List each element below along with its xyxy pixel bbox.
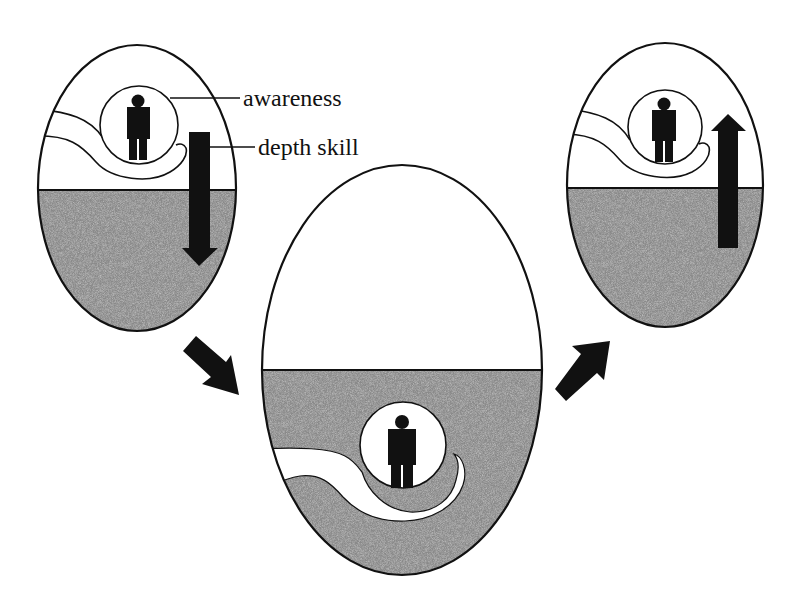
transition-arrow-up-right-icon	[555, 341, 610, 401]
depth-skill-label: depth skill	[258, 134, 359, 160]
transition-arrow-down-right-icon	[183, 336, 239, 395]
depth-skill-diagram: awareness depth skill	[0, 0, 801, 607]
awareness-label: awareness	[243, 85, 342, 111]
stage-left	[30, 45, 250, 340]
channel-upper	[560, 108, 630, 140]
stage-center	[255, 165, 550, 580]
channel-upper	[30, 108, 103, 138]
stage-right	[560, 43, 775, 338]
